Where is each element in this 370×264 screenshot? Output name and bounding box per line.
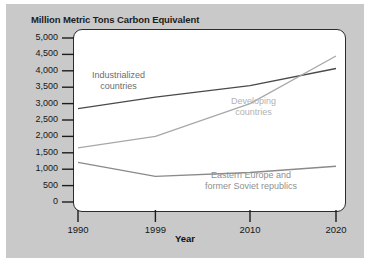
series-label-line1: Developing	[231, 96, 276, 107]
x-axis-ticks	[78, 210, 336, 222]
y-tick-label: 0	[20, 196, 58, 206]
y-tick-label: 2,000	[20, 130, 58, 140]
series-label-developing-countries: Developing countries	[231, 96, 276, 117]
series-label-industrialized-countries: Industrialized countries	[92, 70, 145, 91]
series-label-eastern-europe-former-soviet-republics: Eastern Europe and former Soviet republi…	[205, 170, 297, 191]
x-axis-title: Year	[6, 233, 364, 244]
chart-figure: Million Metric Tons Carbon Equivalent 05…	[6, 4, 364, 258]
series-label-line2: former Soviet republics	[205, 181, 297, 192]
series-label-line1: Industrialized	[92, 70, 145, 81]
series-label-line1: Eastern Europe and	[205, 170, 297, 181]
chart-canvas	[6, 4, 364, 258]
y-tick-label: 4,000	[20, 65, 58, 75]
y-tick-label: 2,500	[20, 114, 58, 124]
y-tick-label: 500	[20, 180, 58, 190]
y-tick-label: 5,000	[20, 32, 58, 42]
y-tick-label: 3,500	[20, 81, 58, 91]
y-tick-label: 1,000	[20, 163, 58, 173]
y-tick-label: 4,500	[20, 48, 58, 58]
series-label-line2: countries	[231, 107, 276, 118]
series-label-line2: countries	[92, 81, 145, 92]
y-tick-label: 3,000	[20, 98, 58, 108]
y-tick-label: 1,500	[20, 147, 58, 157]
y-axis-ticks	[62, 38, 74, 202]
